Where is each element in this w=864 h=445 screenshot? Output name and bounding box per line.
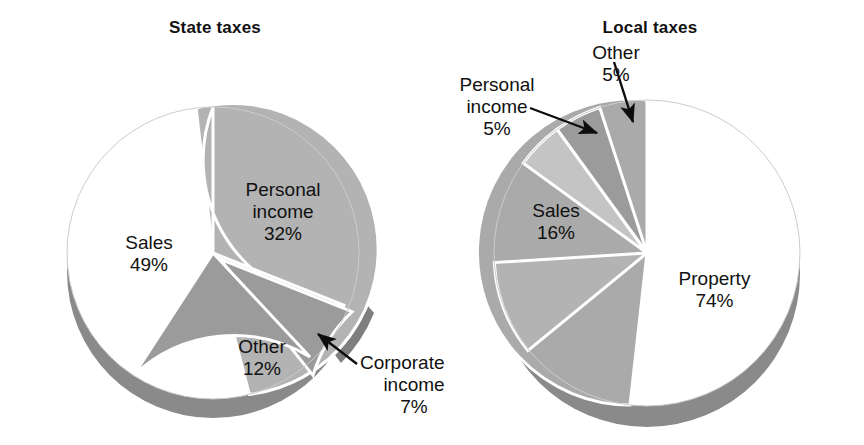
local-label-other-pct: 5% bbox=[577, 64, 655, 86]
state-label-other: Other 12% bbox=[212, 336, 312, 380]
chart-title-local-taxes: Local taxes bbox=[530, 18, 770, 38]
state-label-personal-income-pct: 32% bbox=[218, 223, 348, 245]
local-label-sales-pct: 16% bbox=[506, 222, 606, 244]
state-label-corporate-income-name: Corporate bbox=[360, 352, 445, 373]
local-label-personal-income-name: Personal bbox=[460, 74, 535, 95]
local-label-other-name: Other bbox=[592, 42, 640, 63]
state-label-corporate-income-pct: 7% bbox=[360, 396, 468, 418]
state-label-personal-income-name: Personal bbox=[246, 179, 321, 200]
state-label-corporate-income: Corporate income 7% bbox=[360, 352, 490, 418]
local-label-personal-income-pct: 5% bbox=[437, 118, 557, 140]
state-label-corporate-income-name2: income bbox=[360, 374, 468, 396]
state-label-sales: Sales 49% bbox=[94, 232, 204, 276]
local-label-property-pct: 74% bbox=[652, 290, 777, 312]
chart-title-state-taxes: State taxes bbox=[100, 18, 330, 38]
state-label-personal-income: Personal income 32% bbox=[218, 179, 348, 245]
state-label-sales-pct: 49% bbox=[94, 254, 204, 276]
local-label-sales: Sales 16% bbox=[506, 200, 606, 244]
local-label-sales-name: Sales bbox=[532, 200, 580, 221]
state-label-sales-name: Sales bbox=[125, 232, 173, 253]
local-label-personal-income: Personal income 5% bbox=[437, 74, 557, 140]
state-label-other-name: Other bbox=[238, 336, 286, 357]
local-label-other: Other 5% bbox=[577, 42, 655, 86]
state-label-personal-income-name2: income bbox=[218, 201, 348, 223]
pie-chart-figure: State taxes Local taxes Sales 49% Person… bbox=[0, 0, 864, 445]
local-label-property: Property 74% bbox=[652, 268, 777, 312]
local-label-personal-income-name2: income bbox=[437, 96, 557, 118]
state-label-other-pct: 12% bbox=[212, 358, 312, 380]
local-label-property-name: Property bbox=[679, 268, 751, 289]
